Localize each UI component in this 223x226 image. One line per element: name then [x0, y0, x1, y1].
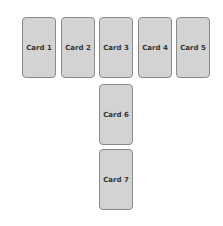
card-label: Card 4 — [142, 44, 168, 52]
card-2: Card 2 — [61, 17, 95, 78]
card-3: Card 3 — [99, 17, 133, 78]
card-4: Card 4 — [138, 17, 172, 78]
card-label: Card 5 — [180, 44, 206, 52]
card-label: Card 1 — [26, 44, 52, 52]
card-5: Card 5 — [176, 17, 210, 78]
card-label: Card 6 — [103, 111, 129, 119]
card-6: Card 6 — [99, 84, 133, 145]
card-1: Card 1 — [22, 17, 56, 78]
card-label: Card 2 — [65, 44, 91, 52]
card-7: Card 7 — [99, 149, 133, 210]
card-label: Card 7 — [103, 176, 129, 184]
card-label: Card 3 — [103, 44, 129, 52]
